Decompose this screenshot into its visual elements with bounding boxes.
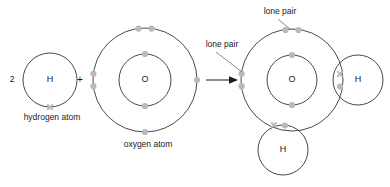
electron-dot-icon [282,122,288,128]
electron-dot-icon [135,26,141,32]
electron-dot-icon [295,27,301,33]
electron-dot-icon [142,51,148,57]
lone-pair-top-electrons [282,27,301,33]
electron-dot-icon [289,52,295,58]
lone-pair-top-label: lone pair [264,6,297,16]
hydrogen-nucleus-symbol: H [47,74,54,84]
dot-and-cross-diagram: 2 H hydrogen atom + O oxygen atom [0,0,390,187]
electron-dot-icon [337,83,343,89]
oxygen-nucleus-symbol: O [141,74,148,84]
lone-pair-left-label: lone pair [206,39,239,49]
hydrogen-atom-caption: hydrogen atom [24,112,81,122]
reaction-arrow-icon [206,76,238,84]
water-hydrogen-right-symbol: H [355,74,362,84]
water-hydrogen-bottom-symbol: H [280,144,287,154]
electron-dot-icon [142,103,148,109]
electron-dot-icon [282,27,288,33]
electron-dot-icon [142,129,148,135]
electron-dot-icon [90,71,96,77]
electron-dot-icon [239,83,245,89]
oxygen-atom-caption: oxygen atom [124,139,173,149]
electron-dot-icon [90,83,96,89]
lone-pair-left-leader-line [216,52,242,72]
diagram-canvas: 2 H hydrogen atom + O oxygen atom [0,0,390,187]
electron-dot-icon [289,102,295,108]
water-oxygen-nucleus-symbol: O [288,74,295,84]
hydrogen-coefficient: 2 [10,74,15,84]
plus-sign: + [77,74,83,85]
electron-dot-icon [148,26,154,32]
lone-pair-left-electrons [239,71,245,90]
electron-dot-icon [194,77,200,83]
electron-cross-icon [337,71,343,77]
